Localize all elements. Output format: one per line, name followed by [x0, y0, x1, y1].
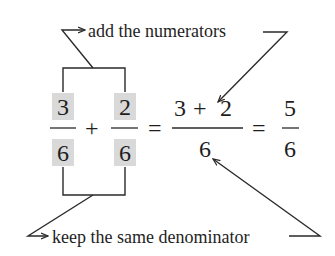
- equals-sign-1: =: [148, 115, 162, 141]
- sum-numerator-operator: +: [193, 95, 207, 121]
- numerator-bracket: [63, 68, 125, 92]
- fraction-result: 5 6: [282, 95, 299, 162]
- result-denominator: 6: [284, 136, 296, 162]
- sum-denominator: 6: [199, 136, 211, 162]
- fraction-2-numerator: 2: [119, 94, 131, 120]
- sum-numerator-right: 2: [220, 95, 232, 121]
- top-annotation-label: add the numerators: [88, 21, 226, 41]
- fraction-sum: 3 + 2 6: [172, 95, 243, 162]
- denominator-bracket: [63, 167, 125, 195]
- bottom-annotation-label: keep the same denominator: [52, 227, 249, 247]
- result-numerator: 5: [284, 95, 296, 121]
- fraction-2: 2 6: [111, 93, 138, 166]
- fraction-addition-diagram: add the numerators 3 6 + 2 6 = 3 + 2 6 =: [0, 0, 335, 256]
- arrow-to-sum-denominator: [213, 159, 320, 236]
- fraction-2-denominator: 6: [119, 140, 131, 166]
- fraction-1-denominator: 6: [57, 140, 69, 166]
- arrow-to-sum-numerator: [218, 32, 287, 102]
- plus-operator: +: [85, 115, 99, 141]
- fraction-1: 3 6: [50, 93, 76, 166]
- sum-numerator-left: 3: [174, 95, 186, 121]
- fraction-1-numerator: 3: [57, 94, 69, 120]
- equals-sign-2: =: [252, 115, 266, 141]
